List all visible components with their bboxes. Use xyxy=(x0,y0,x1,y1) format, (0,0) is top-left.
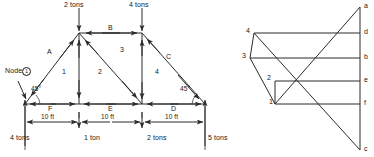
member-label-a: A xyxy=(47,48,52,55)
angle-arc-left xyxy=(36,95,40,104)
load-label-2tons: 2 tons xyxy=(64,1,84,8)
maxwell-label-e: e xyxy=(364,76,368,83)
maxwell-diagonal-4-to-c xyxy=(254,33,360,150)
figure-canvas xyxy=(0,0,374,157)
dimension-label-right: 10 ft xyxy=(165,114,178,121)
panel-label-4: 4 xyxy=(155,68,159,75)
dimension-label-left: 10 ft xyxy=(41,114,54,121)
member-label-b: B xyxy=(108,24,113,31)
angle-label-right: 45° xyxy=(180,86,190,93)
node-label: Node1 xyxy=(5,67,31,76)
figure-root: 2 tons 4 tons Node1 45° 45° A B C D E F … xyxy=(0,0,374,157)
member-label-d: D xyxy=(171,105,176,112)
maxwell-label-a: a xyxy=(364,2,368,9)
panel-label-2: 2 xyxy=(98,68,102,75)
maxwell-segment-4-3 xyxy=(250,33,254,58)
maxwell-label-3: 3 xyxy=(242,52,246,59)
panel-label-3: 3 xyxy=(120,46,124,53)
maxwell-label-2: 2 xyxy=(267,74,271,81)
reaction-label-right: 5 tons xyxy=(208,134,228,141)
maxwell-label-c: c xyxy=(364,145,368,152)
node-pointer-arrow xyxy=(18,81,26,99)
panel-label-1: 1 xyxy=(62,68,66,75)
member-label-f: F xyxy=(48,105,52,112)
load-label-4tons: 4 tons xyxy=(129,1,149,8)
maxwell-label-d: d xyxy=(364,28,368,35)
maxwell-label-4: 4 xyxy=(246,27,250,34)
node-label-text: Node xyxy=(5,67,22,74)
member-label-c: C xyxy=(166,53,171,60)
maxwell-label-f: f xyxy=(364,99,366,106)
reaction-label-left: 4 tons xyxy=(10,134,30,141)
load-label-2tons-bottom: 2 tons xyxy=(147,134,167,141)
node-number-badge: 1 xyxy=(22,67,31,76)
angle-arc-right xyxy=(192,95,196,104)
dimension-label-mid: 10 ft xyxy=(101,114,114,121)
load-label-1ton: 1 ton xyxy=(84,134,100,141)
maxwell-diagonal-1-to-a xyxy=(275,7,360,104)
maxwell-label-b: b xyxy=(364,53,368,60)
member-label-e: E xyxy=(108,105,113,112)
angle-label-left: 45° xyxy=(31,86,41,93)
maxwell-label-1: 1 xyxy=(269,98,273,105)
